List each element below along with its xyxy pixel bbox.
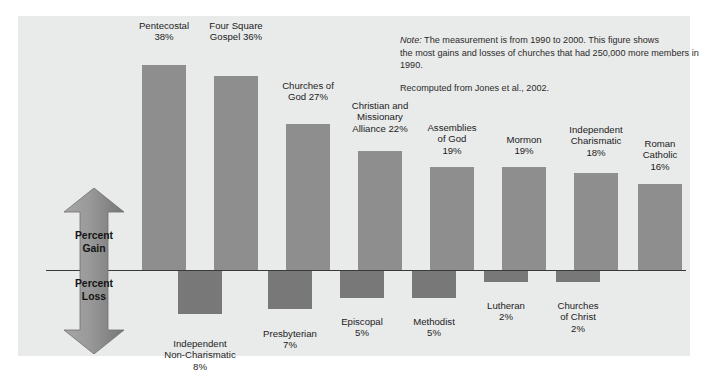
bar[interactable] <box>340 271 384 298</box>
gain-loss-arrow-icon <box>62 188 126 354</box>
bar-label: Assemblies of God 19% <box>412 122 492 156</box>
percent-loss-label: Percent Loss <box>62 278 126 303</box>
bar[interactable] <box>556 271 600 282</box>
bar-label: Independent Non-Charismatic 8% <box>144 338 256 372</box>
note-line-2: the most gains and losses of churches th… <box>400 48 699 71</box>
note-source: Recomputed from Jones et al., 2002. <box>400 82 700 95</box>
plot-area: Note: The measurement is from 1990 to 20… <box>18 16 690 356</box>
bar-label: Christian and Missionary Alliance 22% <box>336 100 424 134</box>
bar[interactable] <box>358 151 402 270</box>
chart-note: Note: The measurement is from 1990 to 20… <box>400 34 700 94</box>
bar[interactable] <box>430 167 474 270</box>
bar[interactable] <box>638 184 682 270</box>
bar[interactable] <box>178 271 222 314</box>
note-line-1: The measurement is from 1990 to 2000. Th… <box>422 35 659 45</box>
note-label: Note: <box>400 35 422 45</box>
bar[interactable] <box>574 173 618 270</box>
bar[interactable] <box>484 271 528 282</box>
bar[interactable] <box>286 124 330 270</box>
bar[interactable] <box>214 76 258 270</box>
bar-label: Four Square Gospel 36% <box>194 20 278 43</box>
bar[interactable] <box>502 167 546 270</box>
bar-label: Roman Catholic 16% <box>620 138 700 172</box>
bar[interactable] <box>268 271 312 309</box>
bar[interactable] <box>142 65 186 270</box>
figure-canvas: Note: The measurement is from 1990 to 20… <box>0 0 708 372</box>
bar-label: Churches of Christ 2% <box>534 300 622 334</box>
bar[interactable] <box>412 271 456 298</box>
percent-gain-label: Percent Gain <box>62 230 126 255</box>
note-paragraph-1: Note: The measurement is from 1990 to 20… <box>400 34 700 72</box>
